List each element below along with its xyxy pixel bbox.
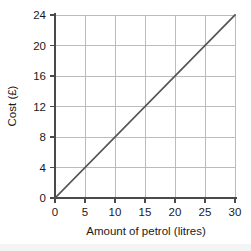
ytick-label-8: 8: [40, 131, 46, 143]
xtick-label-15: 15: [139, 206, 152, 218]
x-axis-ticks: [55, 198, 235, 203]
xtick-label-20: 20: [169, 206, 182, 218]
ytick-label-24: 24: [33, 9, 46, 21]
y-axis-ticks: [50, 15, 55, 198]
xtick-label-5: 5: [82, 206, 88, 218]
ytick-label-4: 4: [40, 162, 47, 174]
ytick-label-12: 12: [33, 101, 46, 113]
petrol-cost-line-chart: 0 4 8 12 16 20 24 0 5 10 15 20 25 30 Amo…: [0, 0, 251, 251]
ytick-label-16: 16: [33, 70, 46, 82]
y-axis-tick-labels: 0 4 8 12 16 20 24: [33, 9, 46, 204]
y-axis-title: Cost (£): [6, 85, 18, 126]
xtick-label-30: 30: [229, 206, 242, 218]
ytick-label-20: 20: [33, 40, 46, 52]
chart-container: 0 4 8 12 16 20 24 0 5 10 15 20 25 30 Amo…: [0, 0, 251, 251]
bottom-edge-strip: [0, 244, 251, 251]
x-axis-tick-labels: 0 5 10 15 20 25 30: [52, 206, 242, 218]
xtick-label-0: 0: [52, 206, 58, 218]
ytick-label-0: 0: [40, 192, 46, 204]
x-axis-title: Amount of petrol (litres): [86, 225, 206, 237]
xtick-label-10: 10: [109, 206, 122, 218]
xtick-label-25: 25: [199, 206, 212, 218]
